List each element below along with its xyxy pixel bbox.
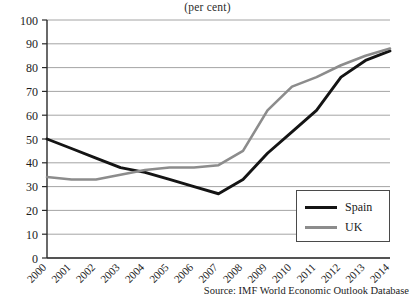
x-tick-label: 2005 xyxy=(147,261,171,285)
x-tick-label: 2013 xyxy=(343,261,367,285)
y-tick-label: 20 xyxy=(26,204,38,218)
x-tick-label: 2009 xyxy=(245,261,269,285)
x-tick-label: 2001 xyxy=(49,261,73,285)
y-tick-label: 30 xyxy=(26,180,38,194)
x-tick-label: 2004 xyxy=(122,261,146,285)
legend-swatch-uk xyxy=(305,226,337,229)
x-tick-label: 2006 xyxy=(171,261,195,285)
y-tick-label: 10 xyxy=(26,228,38,242)
series-line-spain xyxy=(47,51,390,194)
y-tick-label: 70 xyxy=(26,85,38,99)
source-note: Source: IMF World Economic Outlook Datab… xyxy=(204,285,409,296)
x-tick-label: 2010 xyxy=(269,261,293,285)
x-tick-label: 2011 xyxy=(294,261,318,285)
x-tick-label: 2014 xyxy=(367,261,391,285)
y-tick-label: 60 xyxy=(26,109,38,123)
y-tick-label: 90 xyxy=(26,37,38,51)
legend-item-spain: Spain xyxy=(305,197,389,217)
x-tick-label: 2008 xyxy=(220,261,244,285)
x-tick-label: 2007 xyxy=(196,261,220,285)
y-tick-label: 100 xyxy=(20,14,38,28)
x-tick-label: 2003 xyxy=(98,261,122,285)
legend-swatch-spain xyxy=(305,206,337,209)
x-tick-label: 2012 xyxy=(318,261,342,285)
y-tick-label: 80 xyxy=(26,61,38,75)
legend-item-uk: UK xyxy=(305,217,389,237)
chart-plot-area: 0102030405060708090100200020012002200320… xyxy=(0,0,415,299)
legend-label-spain: Spain xyxy=(345,201,372,213)
x-tick-label: 2000 xyxy=(24,261,48,285)
chart-legend: Spain UK xyxy=(296,190,390,242)
chart-figure: (per cent) 01020304050607080901002000200… xyxy=(0,0,415,299)
legend-label-uk: UK xyxy=(345,221,362,233)
x-tick-label: 2002 xyxy=(73,261,97,285)
y-tick-label: 50 xyxy=(26,133,38,147)
y-tick-label: 40 xyxy=(26,156,38,170)
